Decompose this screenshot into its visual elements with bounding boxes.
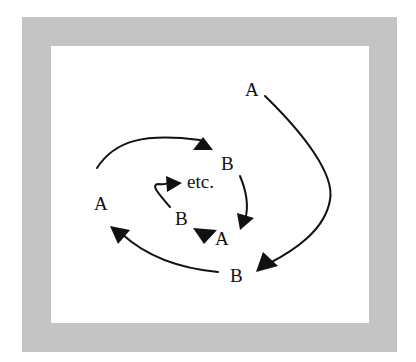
arrowhead-icon (237, 213, 254, 230)
arrowhead-icon (193, 228, 217, 244)
edge-a-left-to-b-middle (97, 137, 200, 168)
label-b-outer: B (230, 265, 243, 286)
label-b-middle: B (221, 153, 234, 174)
arrowhead-icon (110, 226, 130, 244)
label-a-outer: A (245, 79, 259, 100)
label-b-center: B (175, 208, 188, 229)
edge-a-outer-to-b-outer (265, 96, 331, 264)
edge-b-middle-to-a-center (240, 176, 247, 220)
spiral-diagram: A B A B A B etc. (0, 0, 416, 362)
arrowhead-icon (166, 176, 182, 192)
label-etc: etc. (187, 171, 214, 192)
label-a-center: A (215, 228, 229, 249)
arrowhead-icon (256, 252, 278, 272)
label-a-left: A (94, 193, 108, 214)
